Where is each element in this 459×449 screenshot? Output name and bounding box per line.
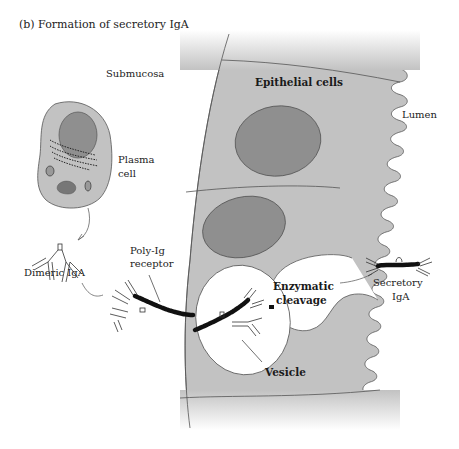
iga-formation-diagram: (b) Formation of secretory IgA bbox=[0, 0, 459, 449]
diagram-canvas: (b) Formation of secretory IgA bbox=[0, 0, 459, 449]
label-vesicle: Vesicle bbox=[264, 366, 306, 378]
transport-arrow bbox=[82, 283, 103, 296]
plasma-cell bbox=[38, 102, 112, 208]
label-enzymatic-1: Enzymatic bbox=[273, 280, 334, 292]
label-submucosa: Submucosa bbox=[106, 68, 164, 79]
mitochondrion-icon bbox=[46, 166, 54, 176]
label-plasma-cell-2: cell bbox=[118, 168, 136, 179]
label-poly-ig-1: Poly-Ig bbox=[130, 245, 166, 256]
label-secretory-2: IgA bbox=[392, 291, 410, 302]
mitochondrion-icon bbox=[85, 181, 91, 191]
bound-iga-icon bbox=[110, 280, 145, 332]
label-secretory-1: Secretory bbox=[373, 277, 423, 288]
secretion-arrow bbox=[78, 208, 90, 240]
label-epithelial-cells: Epithelial cells bbox=[255, 76, 343, 88]
receptor-pointer bbox=[149, 275, 160, 302]
cleavage-site-icon bbox=[269, 305, 274, 309]
top-fade bbox=[180, 30, 420, 70]
arrowhead-icon bbox=[78, 234, 84, 240]
golgi-icon bbox=[57, 181, 76, 194]
label-enzymatic-2: cleavage bbox=[276, 294, 327, 306]
bottom-fade bbox=[180, 390, 400, 430]
label-poly-ig-2: receptor bbox=[130, 258, 174, 269]
figure-title: (b) Formation of secretory IgA bbox=[19, 18, 190, 31]
label-lumen: Lumen bbox=[402, 109, 437, 120]
label-plasma-cell-1: Plasma bbox=[118, 154, 155, 165]
label-dimeric-iga: Dimeric IgA bbox=[24, 267, 86, 278]
